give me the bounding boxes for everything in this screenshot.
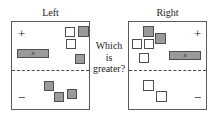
- square-item[interactable]: [67, 89, 77, 99]
- stimulus-canvas: Left Right + − x + − x: [0, 0, 218, 122]
- value-bar-left[interactable]: x: [17, 49, 49, 58]
- plus-sign-left: +: [18, 28, 25, 40]
- minus-sign-left: −: [18, 92, 25, 104]
- square-item[interactable]: [78, 26, 89, 37]
- square-item[interactable]: [144, 39, 154, 49]
- question-line-3: greater?: [90, 63, 128, 75]
- square-item[interactable]: [139, 53, 149, 63]
- panel-title-left: Left: [11, 7, 90, 18]
- panel-right[interactable]: + − x: [128, 21, 207, 110]
- panel-title-right: Right: [128, 7, 207, 18]
- value-bar-label-right: x: [183, 52, 186, 59]
- square-item[interactable]: [54, 92, 64, 102]
- panel-left[interactable]: + − x: [11, 21, 90, 110]
- minus-sign-right: −: [194, 92, 201, 104]
- square-item[interactable]: [156, 91, 167, 102]
- square-item[interactable]: [44, 81, 54, 91]
- square-item[interactable]: [132, 39, 142, 49]
- zero-divider-right: [129, 70, 206, 71]
- square-item[interactable]: [75, 54, 85, 64]
- value-bar-right[interactable]: x: [169, 51, 201, 60]
- square-item[interactable]: [66, 39, 76, 49]
- question-line-1: Which: [90, 40, 128, 52]
- square-item[interactable]: [143, 80, 154, 91]
- zero-divider-left: [12, 70, 89, 71]
- square-item[interactable]: [65, 27, 75, 37]
- square-item[interactable]: [143, 26, 154, 37]
- question-line-2: is: [90, 52, 128, 64]
- square-item[interactable]: [155, 33, 166, 44]
- question-prompt: Which is greater?: [90, 40, 128, 75]
- plus-sign-right: +: [194, 28, 201, 40]
- value-bar-label-left: x: [31, 50, 34, 57]
